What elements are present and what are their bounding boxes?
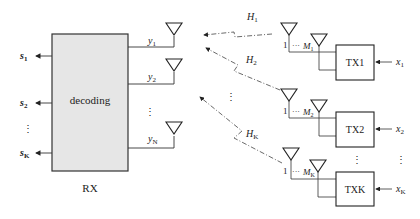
transmitter-2: 1 ··· M2 TX2 x2 — [281, 89, 404, 147]
svg-text:···: ··· — [292, 167, 300, 176]
rx-antenna-1: y1 — [128, 23, 182, 48]
rx-output-s2: s2 — [19, 97, 52, 110]
svg-text:y2: y2 — [147, 71, 156, 84]
svg-text:TX2: TX2 — [346, 124, 364, 135]
channel-H1: H1 — [204, 11, 272, 37]
channel-H2: H2 — [206, 48, 280, 90]
antenna-icon — [166, 23, 182, 35]
antenna-icon — [311, 34, 327, 46]
svg-text:y1: y1 — [147, 35, 156, 48]
antenna-icon — [281, 89, 297, 101]
rx-output-s1: s1 — [19, 50, 52, 63]
rx-output-sK: sK — [19, 147, 52, 160]
transmitters-ellipsis: ⋮ — [352, 154, 362, 165]
transmitter-K: 1 ··· MK TXK xK — [283, 148, 406, 206]
antenna-icon — [166, 122, 182, 134]
channel-HK: HK — [200, 97, 282, 163]
mimo-system-diagram: decoding RX s1 s2 ⋮ sK y1 y2 ⋮ yN H1 H2 … — [0, 0, 420, 219]
svg-text:s1: s1 — [19, 50, 28, 63]
inputs-ellipsis: ⋮ — [396, 154, 406, 165]
antenna-icon — [281, 23, 297, 35]
decoding-label: decoding — [70, 94, 111, 106]
antenna-icon — [311, 100, 327, 112]
svg-text:M1: M1 — [302, 41, 314, 52]
svg-text:H2: H2 — [245, 54, 257, 67]
svg-text:TX1: TX1 — [346, 57, 364, 68]
antenna-icon — [310, 160, 326, 172]
svg-text:MK: MK — [302, 167, 316, 178]
svg-text:TXK: TXK — [345, 184, 366, 195]
channels-ellipsis: ⋮ — [226, 91, 236, 102]
svg-text:s2: s2 — [19, 97, 28, 110]
svg-text:M2: M2 — [302, 107, 314, 118]
transmitter-1: 1 ··· M1 TX1 x1 — [281, 23, 404, 80]
rx-antenna-N: yN — [128, 122, 182, 148]
antenna-icon — [283, 148, 299, 160]
svg-text:H1: H1 — [246, 11, 258, 24]
rx-antenna-ellipsis: ⋮ — [145, 106, 155, 117]
svg-text:x2: x2 — [395, 123, 404, 136]
svg-text:1: 1 — [283, 106, 288, 116]
svg-text:xK: xK — [395, 183, 406, 196]
svg-text:1: 1 — [283, 166, 288, 176]
svg-text:yN: yN — [147, 133, 158, 146]
antenna-icon — [166, 59, 182, 71]
svg-text:x1: x1 — [395, 56, 404, 69]
svg-text:···: ··· — [292, 41, 300, 50]
svg-text:1: 1 — [283, 40, 288, 50]
rx-antenna-2: y2 — [128, 59, 182, 84]
svg-text:sK: sK — [19, 147, 30, 160]
svg-text:HK: HK — [245, 128, 258, 141]
rx-outputs-ellipsis: ⋮ — [23, 123, 33, 134]
rx-label: RX — [82, 182, 97, 194]
svg-text:···: ··· — [292, 107, 300, 116]
